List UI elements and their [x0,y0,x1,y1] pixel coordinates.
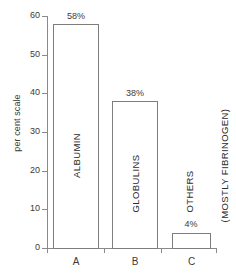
y-tick-40 [42,93,47,94]
x-category-label-b: B [112,256,158,268]
bar-chart: per cent scale 60 50 40 30 20 10 0 58% A… [0,0,236,280]
y-axis-line [47,16,48,249]
y-tick-30 [42,132,47,133]
y-tick-10 [42,209,47,210]
y-tick-60 [42,16,47,17]
bar-c-name-label-line1: OTHERS [184,147,195,237]
y-tick-50 [42,55,47,56]
bar-c-name-label-line2: (MOSTLY FIBRINOGEN) [219,96,230,236]
y-tick-label-60: 60 [18,11,40,20]
x-tick-end [216,248,217,253]
y-tick-label-30: 30 [18,127,40,136]
bar-b-value-label: 38% [110,88,160,98]
y-tick-label-10: 10 [18,204,40,213]
x-category-label-c: C [171,256,212,268]
y-tick-20 [42,171,47,172]
x-tick-a-b [104,248,105,253]
x-category-label-a: A [53,256,99,268]
y-tick-label-0: 0 [18,243,40,252]
bar-a-value-label: 58% [51,11,101,21]
x-tick-start [47,248,48,253]
y-tick-label-40: 40 [18,88,40,97]
x-tick-b-c [161,248,162,253]
bar-a-name-label: ALBUMIN [71,116,82,196]
bar-b-name-label: GLOBULINS [130,143,141,225]
y-tick-label-50: 50 [18,50,40,59]
y-tick-label-20: 20 [18,166,40,175]
